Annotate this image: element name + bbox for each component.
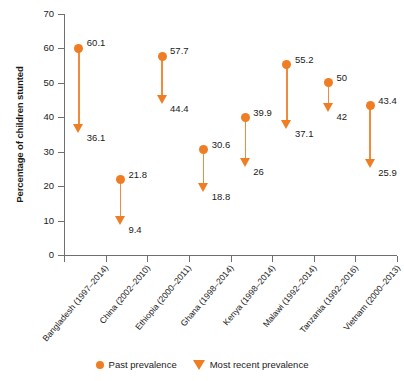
past-prevalence-marker[interactable] <box>241 113 250 122</box>
x-axis-label-slot: Malawi (1992–2014) <box>310 263 311 264</box>
recent-prevalence-marker[interactable] <box>198 183 208 192</box>
connector-line <box>161 56 163 95</box>
recent-prevalence-marker[interactable] <box>323 103 333 112</box>
recent-prevalence-marker[interactable] <box>73 124 83 133</box>
stunting-prevalence-chart: Percentage of children stunted 010203040… <box>0 0 404 381</box>
recent-prevalence-marker[interactable] <box>240 158 250 167</box>
connector-line <box>245 118 247 159</box>
past-prevalence-marker[interactable] <box>158 52 167 61</box>
past-prevalence-marker[interactable] <box>282 60 291 69</box>
recent-prevalence-marker[interactable] <box>365 159 375 168</box>
past-prevalence-marker[interactable] <box>74 44 83 53</box>
x-axis-label-slot: Kenya (1998–2014) <box>268 263 269 264</box>
legend-item-recent[interactable]: Most recent prevalence <box>193 360 309 370</box>
past-value-label: 43.4 <box>378 96 397 106</box>
recent-prevalence-marker[interactable] <box>115 216 125 225</box>
past-value-label: 55.2 <box>295 55 314 65</box>
legend-item-past[interactable]: Past prevalence <box>96 360 177 370</box>
past-value-label: 57.7 <box>170 46 189 56</box>
recent-value-label: 36.1 <box>87 133 106 143</box>
past-value-label: 30.6 <box>212 140 231 150</box>
legend-label-recent: Most recent prevalence <box>210 360 309 370</box>
past-prevalence-marker[interactable] <box>366 101 375 110</box>
connector-line <box>203 150 205 184</box>
x-axis-label-slot: Vietnam (2000–2013) <box>393 263 394 264</box>
x-axis-label-slot: Ethiopia (2000–2011) <box>185 263 186 264</box>
x-axis-label-slot: Bangladesh (1997–2014) <box>102 263 103 264</box>
circle-marker-icon <box>96 361 104 369</box>
down-triangle-marker-icon <box>193 360 205 370</box>
x-axis-label-slot: China (2002–2010) <box>143 263 144 264</box>
recent-value-label: 25.9 <box>378 168 397 178</box>
x-axis-label-slot: Tanzania (1992–2016) <box>351 263 352 264</box>
connector-line <box>286 65 288 120</box>
chart-legend: Past prevalence Most recent prevalence <box>0 360 404 370</box>
connector-line <box>120 180 122 216</box>
recent-value-label: 9.4 <box>128 225 141 235</box>
past-prevalence-marker[interactable] <box>116 175 125 184</box>
past-value-label: 50 <box>337 73 348 83</box>
connector-line <box>369 106 371 159</box>
recent-value-label: 44.4 <box>170 104 189 114</box>
past-value-label: 60.1 <box>87 38 106 48</box>
past-prevalence-marker[interactable] <box>199 145 208 154</box>
recent-prevalence-marker[interactable] <box>157 95 167 104</box>
x-axis-label-slot: Ghana (1998–2014) <box>227 263 228 264</box>
past-prevalence-marker[interactable] <box>324 78 333 87</box>
recent-value-label: 37.1 <box>295 129 314 139</box>
recent-value-label: 26 <box>253 167 264 177</box>
past-value-label: 39.9 <box>253 108 272 118</box>
recent-prevalence-marker[interactable] <box>281 120 291 129</box>
recent-value-label: 18.8 <box>212 192 231 202</box>
past-value-label: 21.8 <box>128 170 147 180</box>
recent-value-label: 42 <box>337 112 348 122</box>
legend-label-past: Past prevalence <box>109 360 177 370</box>
connector-line <box>78 48 80 124</box>
